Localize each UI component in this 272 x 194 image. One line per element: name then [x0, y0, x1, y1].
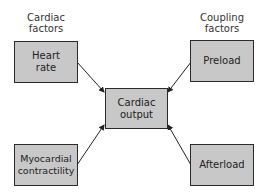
arrow-contractility-to-output [77, 125, 104, 165]
arrow-heart-rate-to-output [77, 62, 104, 92]
header-line: Coupling [190, 12, 254, 23]
node-label: Afterload [199, 159, 244, 171]
coupling-factors-header: Coupling factors [190, 12, 254, 34]
node-afterload: Afterload [190, 144, 254, 186]
node-label: rate [32, 62, 60, 74]
node-label: Heart [32, 50, 60, 62]
header-line: factors [14, 23, 78, 34]
node-myocardial-contractility: Myocardial contractility [14, 144, 78, 186]
node-label: Cardiac [118, 97, 156, 109]
cardiac-factors-header: Cardiac factors [14, 12, 78, 34]
node-cardiac-output: Cardiac output [105, 88, 168, 129]
header-line: factors [190, 23, 254, 34]
arrow-afterload-to-output [168, 125, 191, 165]
header-line: Cardiac [14, 12, 78, 23]
node-label: contractility [18, 165, 75, 177]
arrow-preload-to-output [168, 62, 191, 92]
node-label: Preload [203, 55, 240, 67]
node-label: Myocardial [18, 153, 75, 165]
node-heart-rate: Heart rate [14, 41, 78, 83]
node-preload: Preload [190, 40, 254, 82]
node-label: output [118, 109, 156, 121]
